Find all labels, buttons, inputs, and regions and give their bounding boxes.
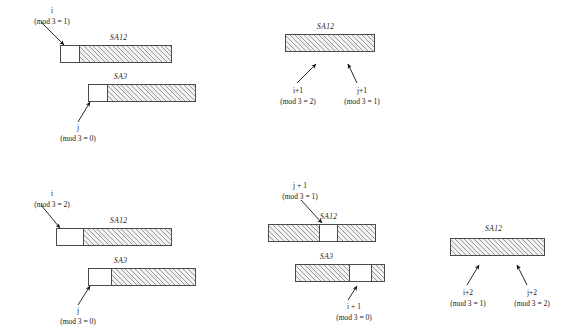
cell-white-sa3-bottom-left [89, 269, 111, 285]
annotation-j-bottom-left: j (mod 3 = 0) [42, 305, 114, 326]
cell-hatch-sa12-top-left [79, 46, 171, 62]
cell-hatch-sa12-bottom-right [451, 239, 544, 255]
cell-hatch-right-sa3-bottom-middle [371, 265, 384, 281]
arrow-j-bottom-left [78, 286, 90, 305]
cell-white-sa3-top-left [89, 85, 107, 101]
annotation-j2-bottom-right: j+2 (mod 3 = 2) [496, 287, 568, 309]
bar-sa12-bottom-left [56, 228, 172, 246]
annotation-i-top-left-symbol: i [18, 5, 86, 16]
cell-white-sa3-bottom-middle [349, 265, 371, 281]
annotation-j2-bottom-right-mod: (mod 3 = 2) [496, 298, 568, 309]
bar-label-sa3-bottom-middle: SA3 [320, 252, 333, 261]
cell-white-sa12-bottom-middle [319, 225, 337, 241]
cell-hatch-left-sa3-bottom-middle [296, 265, 349, 281]
annotation-j2-bottom-right-symbol: j+2 [496, 287, 568, 298]
cell-hatch-right-sa12-bottom-middle [337, 225, 375, 241]
cell-hatch-sa12-bottom-left [83, 229, 171, 245]
annotation-i-bottom-left: i (mod 3 = 2) [18, 188, 86, 210]
annotation-i1-top-right: i+1 (mod 3 = 2) [262, 85, 334, 107]
cell-white-sa12-bottom-left [57, 229, 83, 245]
bar-sa3-top-left [88, 84, 196, 102]
annotation-i1-bottom-middle-mod: (mod 3 = 0) [318, 312, 390, 323]
annotation-i-top-left: i (mod 3 = 1) [18, 5, 86, 27]
annotation-i2-bottom-right-symbol: i+2 [432, 287, 504, 298]
annotation-i-top-left-mod: (mod 3 = 1) [18, 16, 86, 27]
cell-white-sa12-top-left [61, 46, 79, 62]
annotation-j-bottom-left-mod: (mod 3 = 0) [42, 316, 114, 326]
suffix-array-merge-diagram: i (mod 3 = 1) SA12 SA3 j (mod 3 = 0) SA1… [0, 0, 575, 326]
annotation-j1-bottom-middle-symbol: j + 1 [264, 180, 336, 191]
arrow-i1-bottom-middle [348, 286, 357, 300]
annotation-i2-bottom-right: i+2 (mod 3 = 1) [432, 287, 504, 309]
annotation-j1-top-right: j+1 (mod 3 = 1) [326, 85, 398, 107]
annotation-j1-bottom-middle: j + 1 (mod 3 = 1) [264, 180, 336, 202]
annotation-j-top-left-mod: (mod 3 = 0) [42, 133, 114, 144]
bar-sa12-bottom-right [450, 238, 545, 256]
annotation-j1-top-right-mod: (mod 3 = 1) [326, 96, 398, 107]
bar-label-sa12-top-right: SA12 [317, 22, 334, 31]
arrow-j1-top-right [348, 64, 357, 83]
cell-hatch-sa3-top-left [107, 85, 195, 101]
annotation-i2-bottom-right-mod: (mod 3 = 1) [432, 298, 504, 309]
bar-sa12-bottom-middle [268, 224, 376, 242]
annotation-i-bottom-left-symbol: i [18, 188, 86, 199]
annotation-j-bottom-left-symbol: j [42, 305, 114, 316]
arrow-j-top-left [78, 102, 90, 122]
arrow-j1-bottom-middle [301, 200, 322, 223]
cell-hatch-sa12-top-right [286, 35, 374, 51]
bar-label-sa12-bottom-right: SA12 [485, 224, 502, 233]
bar-label-sa3-top-left: SA3 [114, 72, 127, 81]
arrow-j2-bottom-right [517, 265, 527, 285]
annotation-i1-top-right-symbol: i+1 [262, 85, 334, 96]
annotation-i1-bottom-middle-symbol: i + 1 [318, 301, 390, 312]
annotation-i1-bottom-middle: i + 1 (mod 3 = 0) [318, 301, 390, 323]
annotation-j-top-left-symbol: j [42, 122, 114, 133]
annotation-j1-bottom-middle-mod: (mod 3 = 1) [264, 191, 336, 202]
annotation-i-bottom-left-mod: (mod 3 = 2) [18, 199, 86, 210]
cell-hatch-left-sa12-bottom-middle [269, 225, 319, 241]
annotation-i1-top-right-mod: (mod 3 = 2) [262, 96, 334, 107]
bar-label-sa12-bottom-middle: SA12 [320, 212, 337, 221]
bar-label-sa12-bottom-left: SA12 [110, 216, 127, 225]
annotation-j-top-left: j (mod 3 = 0) [42, 122, 114, 144]
annotation-j1-top-right-symbol: j+1 [326, 85, 398, 96]
bar-sa12-top-right [285, 34, 375, 52]
cell-hatch-sa3-bottom-left [111, 269, 195, 285]
bar-label-sa12-top-left: SA12 [110, 33, 127, 42]
arrow-i1-top-right [297, 64, 316, 83]
bar-sa3-bottom-middle [295, 264, 385, 282]
bar-sa3-bottom-left [88, 268, 196, 286]
bar-label-sa3-bottom-left: SA3 [114, 256, 127, 265]
arrow-i2-bottom-right [467, 265, 479, 285]
bar-sa12-top-left [60, 45, 172, 63]
